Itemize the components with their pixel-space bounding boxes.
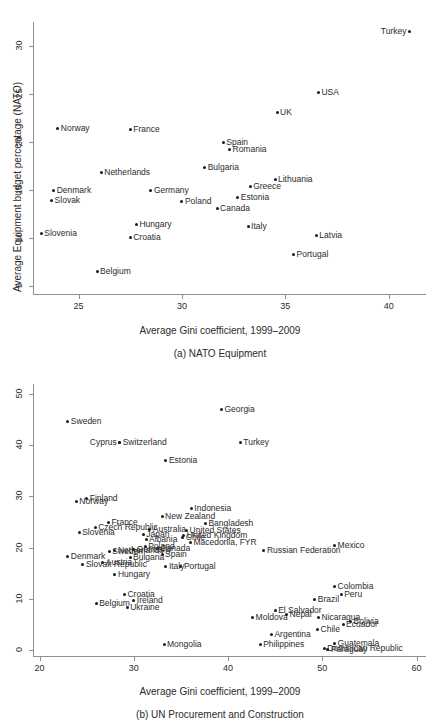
data-point xyxy=(100,171,103,174)
y-axis-line xyxy=(33,22,34,295)
x-tick-label: 35 xyxy=(275,302,295,311)
data-point xyxy=(316,628,319,631)
x-axis-line xyxy=(33,294,426,295)
x-axis-title-b: Average Gini coefficient, 1999–2009 xyxy=(0,686,440,697)
data-point xyxy=(317,616,320,619)
x-tick-label: 20 xyxy=(30,664,50,673)
data-point xyxy=(142,533,145,536)
data-point-label: Poland xyxy=(185,197,211,206)
data-point xyxy=(161,515,164,518)
data-point xyxy=(52,189,55,192)
data-point xyxy=(129,236,132,239)
data-point xyxy=(270,633,273,636)
x-tick-label: 30 xyxy=(124,664,144,673)
y-tick xyxy=(29,599,33,600)
data-point-label: Hungary xyxy=(139,220,171,229)
y-tick xyxy=(29,445,33,446)
data-point xyxy=(228,148,231,151)
data-point-label: Portugal xyxy=(297,250,329,259)
data-point-label: Sweden xyxy=(71,417,102,426)
data-point xyxy=(313,598,316,601)
x-tick xyxy=(322,657,323,661)
data-point-label: Slovak xyxy=(55,196,81,205)
x-axis-title-a: Average Gini coefficient, 1999–2009 xyxy=(0,325,440,336)
x-tick xyxy=(417,657,418,661)
data-point-label: Mexico xyxy=(338,541,365,550)
x-tick-label: 25 xyxy=(69,302,89,311)
plot-area-a: 2530354051015202530TurkeyUSAUKNorwayFran… xyxy=(33,22,426,294)
data-point xyxy=(292,253,295,256)
data-point xyxy=(126,606,129,609)
y-tick xyxy=(29,46,33,47)
y-tick xyxy=(29,94,33,95)
data-point-label: Belgium xyxy=(100,267,131,276)
data-point xyxy=(259,643,262,646)
x-tick-label: 40 xyxy=(218,664,238,673)
data-point xyxy=(236,196,239,199)
data-point-label: Estonia xyxy=(241,193,269,202)
x-tick xyxy=(40,657,41,661)
x-tick xyxy=(285,295,286,299)
data-point xyxy=(262,549,265,552)
data-point xyxy=(108,550,111,553)
y-axis-line xyxy=(33,384,34,657)
x-axis-line xyxy=(33,656,426,657)
data-point xyxy=(81,563,84,566)
data-point-label: Russian Federation xyxy=(267,546,341,555)
data-point-label: Turkey xyxy=(381,27,407,36)
data-point xyxy=(75,500,78,503)
data-point-label: Slovenia xyxy=(82,528,115,537)
data-point xyxy=(323,647,326,650)
data-point-label: Mongolia xyxy=(167,640,202,649)
y-tick xyxy=(29,286,33,287)
y-tick xyxy=(29,394,33,395)
data-point xyxy=(66,420,69,423)
data-point xyxy=(149,189,152,192)
y-tick xyxy=(29,496,33,497)
y-tick-label: 50 xyxy=(15,386,24,402)
data-point-label: Romania xyxy=(233,145,267,154)
data-point xyxy=(222,141,225,144)
data-point-label: Estonia xyxy=(169,456,197,465)
data-point xyxy=(276,111,279,114)
data-point xyxy=(145,538,148,541)
data-point-label: Italy xyxy=(169,562,185,571)
y-tick-label: 30 xyxy=(15,38,24,54)
data-point-label: Portugal xyxy=(184,562,216,571)
data-point xyxy=(220,408,223,411)
data-point xyxy=(56,127,59,130)
x-tick-label: 60 xyxy=(407,664,427,673)
x-tick xyxy=(228,657,229,661)
data-point xyxy=(113,573,116,576)
data-point-label: Philippines xyxy=(263,640,304,649)
y-axis-title-a: Average Equipment budget percentage (NAT… xyxy=(12,82,23,292)
panel-un-procurement: 203040506001020304050GeorgiaSwedenSwitze… xyxy=(0,364,440,728)
data-point-label: Moldova xyxy=(256,613,288,622)
data-point-label: Hungary xyxy=(118,570,150,579)
y-tick-label: 20 xyxy=(15,539,24,555)
data-point-label: Greece xyxy=(253,182,281,191)
data-point-label: Switzerland xyxy=(123,438,167,447)
data-point xyxy=(50,199,53,202)
data-point xyxy=(247,225,250,228)
figure-two-scatter-panels: 2530354051015202530TurkeyUSAUKNorwayFran… xyxy=(0,0,440,728)
data-point-label: Turkey xyxy=(243,438,269,447)
x-tick-label: 40 xyxy=(379,302,399,311)
y-tick-label: 30 xyxy=(15,488,24,504)
data-point-label: Canada xyxy=(220,204,250,213)
y-tick xyxy=(29,142,33,143)
data-point xyxy=(190,507,193,510)
data-point xyxy=(123,593,126,596)
data-point-label: Ecuador xyxy=(346,620,378,629)
plot-area-b: 203040506001020304050GeorgiaSwedenSwitze… xyxy=(33,384,426,656)
data-point-label: Ukraine xyxy=(130,603,159,612)
data-point-label: Italy xyxy=(251,222,267,231)
data-point xyxy=(135,223,138,226)
data-point-label: Argentina xyxy=(274,630,310,639)
data-point-label: Latvia xyxy=(319,231,342,240)
data-point xyxy=(163,643,166,646)
y-tick xyxy=(29,650,33,651)
data-point xyxy=(333,585,336,588)
data-point xyxy=(164,459,167,462)
x-tick xyxy=(389,295,390,299)
